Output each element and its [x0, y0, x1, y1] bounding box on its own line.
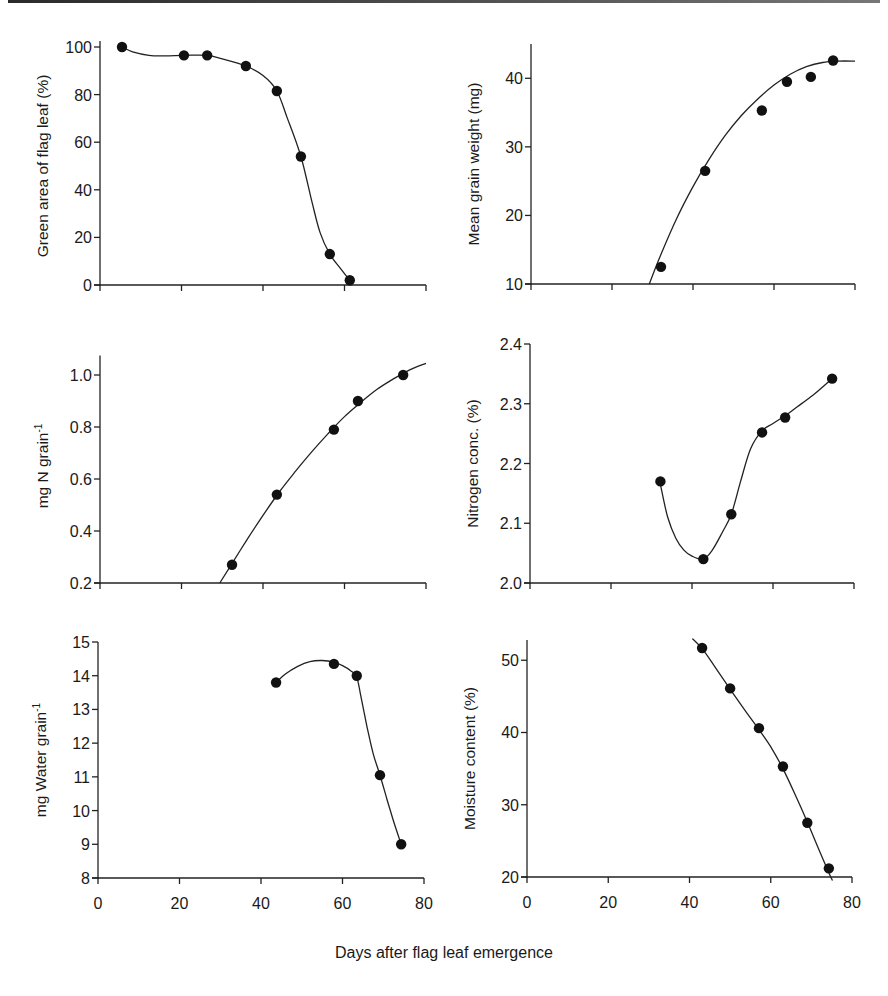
fitted-curve [692, 639, 832, 881]
chart-panel-water-per-grain: 89101112131415020406080mg Water grain-1 [31, 634, 433, 912]
y-tick-label: 10 [505, 276, 523, 293]
chart-panel-moisture-content: 20304050020406080Moisture content (%) [461, 639, 861, 911]
y-tick-label: 2.3 [500, 396, 522, 413]
y-tick-label: 20 [501, 869, 519, 886]
data-point [329, 659, 339, 669]
data-point [802, 818, 812, 828]
x-tick-label: 0 [523, 894, 532, 911]
data-point [353, 396, 363, 406]
chart-panel-green-area: 020406080100Green area of flag leaf (%) [34, 39, 426, 294]
data-point [697, 643, 707, 653]
y-tick-label: 0.8 [70, 419, 92, 436]
data-point [656, 262, 666, 272]
data-point [725, 683, 735, 693]
x-tick-label: 20 [171, 895, 189, 912]
data-point [782, 77, 792, 87]
data-point [806, 72, 816, 82]
fitted-curve [276, 660, 401, 844]
fitted-curve [122, 47, 350, 280]
data-point [726, 509, 736, 519]
data-point [396, 839, 406, 849]
data-point [778, 761, 788, 771]
y-tick-label: 100 [65, 39, 92, 56]
data-point [655, 476, 665, 486]
data-point [352, 671, 362, 681]
y-tick-label: 12 [72, 735, 90, 752]
y-tick-label: 30 [505, 139, 523, 156]
y-tick-label: 0.4 [70, 523, 92, 540]
y-tick-label: 10 [72, 803, 90, 820]
y-tick-label: 8 [81, 870, 90, 887]
data-point [179, 50, 189, 60]
data-point [325, 249, 335, 259]
data-point [271, 677, 281, 687]
y-axis-label: mg Water grain-1 [31, 702, 49, 817]
y-tick-label: 0.2 [70, 575, 92, 592]
y-tick-label: 13 [72, 701, 90, 718]
data-point [698, 554, 708, 564]
figure-panels: 020406080100Green area of flag leaf (%)1… [0, 0, 888, 996]
x-tick-label: 60 [762, 894, 780, 911]
y-axis-label: Nitrogen conc. (%) [464, 399, 481, 527]
data-point [296, 151, 306, 161]
y-tick-label: 50 [501, 652, 519, 669]
chart-panel-nitrogen-conc: 2.02.12.22.32.4Nitrogen conc. (%) [464, 336, 854, 592]
fitted-curve [649, 61, 855, 284]
y-tick-label: 0.6 [70, 471, 92, 488]
y-tick-label: 40 [505, 70, 523, 87]
data-point [202, 50, 212, 60]
data-point [827, 373, 837, 383]
y-tick-label: 2.4 [500, 336, 522, 353]
y-tick-label: 2.0 [500, 575, 522, 592]
x-tick-label: 80 [415, 895, 433, 912]
x-tick-label: 60 [334, 895, 352, 912]
data-point [329, 424, 339, 434]
data-point [241, 61, 251, 71]
chart-panel-nitrogen-per-grain: 0.20.40.60.81.0mg N grain-1 [33, 356, 426, 593]
data-point [272, 489, 282, 499]
y-axis-label: Mean grain weight (mg) [465, 83, 482, 246]
data-point [828, 55, 838, 65]
y-tick-label: 1.0 [70, 367, 92, 384]
chart-panel-grain-weight: 10203040Mean grain weight (mg) [465, 44, 855, 293]
data-point [375, 770, 385, 780]
data-point [345, 275, 355, 285]
x-tick-label: 20 [599, 894, 617, 911]
data-point [757, 427, 767, 437]
data-point [272, 86, 282, 96]
y-tick-label: 14 [72, 668, 90, 685]
x-tick-label: 0 [94, 895, 103, 912]
fitted-curve [660, 379, 832, 560]
y-tick-label: 20 [505, 207, 523, 224]
y-axis-label: Moisture content (%) [461, 687, 478, 830]
data-point [780, 412, 790, 422]
y-tick-label: 2.1 [500, 515, 522, 532]
fitted-curve [220, 363, 426, 583]
data-point [754, 723, 764, 733]
data-point [117, 42, 127, 52]
y-tick-label: 0 [83, 277, 92, 294]
x-tick-label: 40 [681, 894, 699, 911]
data-point [398, 370, 408, 380]
data-point [227, 560, 237, 570]
y-tick-label: 30 [501, 797, 519, 814]
y-tick-label: 2.2 [500, 456, 522, 473]
y-tick-label: 9 [81, 836, 90, 853]
y-tick-label: 11 [73, 769, 90, 786]
data-point [757, 105, 767, 115]
y-tick-label: 40 [74, 182, 92, 199]
y-tick-label: 60 [74, 134, 92, 151]
x-tick-label: 80 [843, 894, 861, 911]
data-point [700, 166, 710, 176]
y-axis-label: mg N grain-1 [33, 423, 51, 508]
data-point [824, 863, 834, 873]
y-axis-label: Green area of flag leaf (%) [34, 75, 51, 258]
y-tick-label: 40 [501, 724, 519, 741]
y-tick-label: 15 [72, 634, 90, 651]
y-tick-label: 20 [74, 229, 92, 246]
y-tick-label: 80 [74, 87, 92, 104]
shared-x-axis-label: Days after flag leaf emergence [0, 944, 888, 962]
x-tick-label: 40 [252, 895, 270, 912]
